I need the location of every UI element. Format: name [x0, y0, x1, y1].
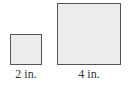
small-square	[10, 34, 42, 65]
large-square	[57, 3, 121, 65]
small-square-label: 2 in.	[6, 68, 46, 80]
large-square-label: 4 in.	[69, 68, 109, 80]
